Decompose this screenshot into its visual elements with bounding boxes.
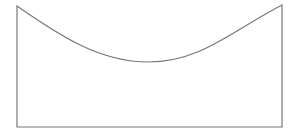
diagram-canvas — [0, 0, 295, 135]
curved-shape-diagram — [0, 0, 295, 135]
shape-outline — [17, 5, 282, 127]
